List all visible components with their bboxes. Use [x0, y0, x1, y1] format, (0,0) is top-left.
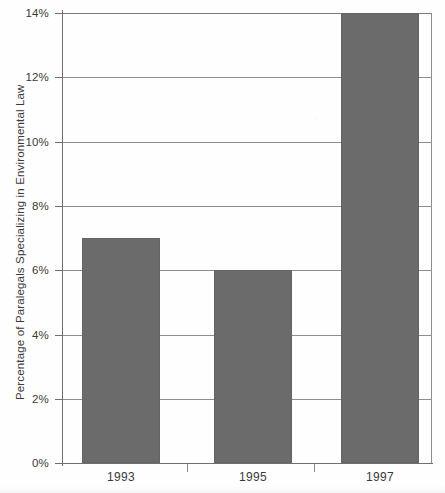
plot-right-border: [431, 13, 432, 463]
y-tick-label-0: 0%: [5, 457, 49, 469]
y-tick-label-8: 8%: [5, 200, 49, 212]
plot-area: [63, 13, 432, 463]
bar-1995[interactable]: [214, 270, 292, 463]
x-tick-label-1997: 1997: [335, 470, 425, 484]
y-axis-title: Percentage of Paralegals Specializing in…: [14, 60, 26, 400]
x-tick-label-1993: 1993: [76, 470, 166, 484]
x-tick-label-1995: 1995: [208, 470, 298, 484]
y-tick-label-10: 10%: [5, 136, 49, 148]
x-axis-line: [55, 463, 433, 464]
x-tick-mark-1: [187, 464, 188, 472]
y-tick-label-6: 6%: [5, 264, 49, 276]
bar-1997[interactable]: [341, 13, 419, 463]
y-tick-label-12: 12%: [5, 71, 49, 83]
y-tick-label-2: 2%: [5, 393, 49, 405]
bar-1993[interactable]: [82, 238, 160, 463]
y-tick-label-4: 4%: [5, 329, 49, 341]
bar-chart: Percentage of Paralegals Specializing in…: [0, 0, 445, 493]
x-tick-mark-2: [314, 464, 315, 472]
y-tick-label-14: 14%: [5, 7, 49, 19]
